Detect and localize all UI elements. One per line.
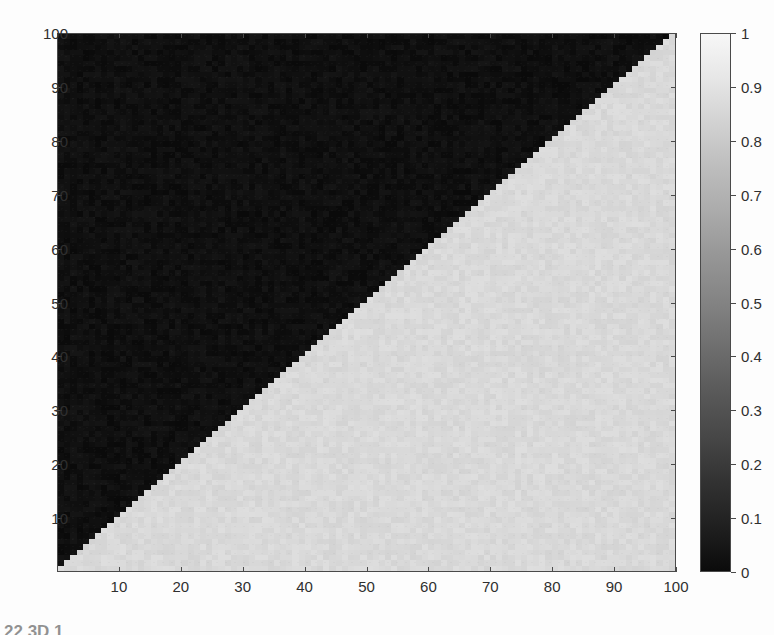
y-tick-label: 40 <box>51 348 68 365</box>
y-tick-label: 20 <box>51 456 68 473</box>
x-tick <box>181 567 182 572</box>
x-tick <box>614 567 615 572</box>
x-tick-top <box>305 33 306 38</box>
colorbar-tick <box>731 87 736 88</box>
x-tick <box>367 567 368 572</box>
colorbar-tick <box>731 464 736 465</box>
y-tick-right <box>671 303 676 304</box>
x-tick-top <box>490 33 491 38</box>
colorbar <box>700 33 731 572</box>
x-tick-label: 90 <box>606 578 623 595</box>
x-tick <box>428 567 429 572</box>
x-tick-top <box>428 33 429 38</box>
x-tick <box>552 567 553 572</box>
y-tick-label: 70 <box>51 186 68 203</box>
heatmap-image <box>58 34 675 571</box>
x-tick-label: 30 <box>234 578 251 595</box>
y-tick-right <box>671 518 676 519</box>
y-tick-label: 10 <box>51 510 68 527</box>
y-tick-right <box>671 87 676 88</box>
colorbar-tick-label: 0.7 <box>741 186 762 203</box>
figure-container: 1020304050607080901001020304050607080901… <box>0 0 774 635</box>
x-tick <box>119 567 120 572</box>
y-tick-right <box>671 464 676 465</box>
colorbar-tick-label: 0.3 <box>741 402 762 419</box>
x-tick-label: 100 <box>663 578 688 595</box>
heatmap-axes <box>57 33 676 572</box>
x-tick-label: 80 <box>544 578 561 595</box>
x-tick-top <box>614 33 615 38</box>
x-tick <box>305 567 306 572</box>
colorbar-tick-label: 0.6 <box>741 240 762 257</box>
colorbar-tick-label: 0.2 <box>741 456 762 473</box>
colorbar-tick <box>731 518 736 519</box>
y-tick-right <box>671 410 676 411</box>
y-tick-right <box>671 249 676 250</box>
x-tick-label: 70 <box>482 578 499 595</box>
colorbar-tick <box>731 410 736 411</box>
colorbar-tick-label: 0.5 <box>741 294 762 311</box>
colorbar-tick-label: 0.1 <box>741 510 762 527</box>
y-tick-label: 80 <box>51 132 68 149</box>
y-tick-label: 50 <box>51 294 68 311</box>
colorbar-tick <box>731 195 736 196</box>
x-tick <box>243 567 244 572</box>
colorbar-tick-label: 0.8 <box>741 132 762 149</box>
x-tick-top <box>119 33 120 38</box>
x-tick-top <box>676 33 677 38</box>
colorbar-tick <box>731 141 736 142</box>
y-tick-label: 30 <box>51 402 68 419</box>
y-tick-label: 90 <box>51 78 68 95</box>
x-tick-label: 10 <box>111 578 128 595</box>
x-tick-label: 40 <box>296 578 313 595</box>
x-tick-label: 60 <box>420 578 437 595</box>
x-tick-top <box>552 33 553 38</box>
x-tick-top <box>243 33 244 38</box>
colorbar-tick <box>731 356 736 357</box>
x-tick <box>490 567 491 572</box>
colorbar-tick <box>731 303 736 304</box>
colorbar-tick-label: 1 <box>741 25 749 42</box>
y-tick-right <box>671 141 676 142</box>
colorbar-tick-label: 0.4 <box>741 348 762 365</box>
colorbar-tick <box>731 33 736 34</box>
x-tick <box>676 567 677 572</box>
y-tick-label: 60 <box>51 240 68 257</box>
colorbar-tick <box>731 572 736 573</box>
x-tick-top <box>181 33 182 38</box>
x-tick-top <box>367 33 368 38</box>
colorbar-tick <box>731 249 736 250</box>
y-tick-right <box>671 356 676 357</box>
page-caption-fragment: 22 3D 1 <box>4 622 64 635</box>
colorbar-tick-label: 0 <box>741 564 749 581</box>
y-tick-right <box>671 195 676 196</box>
y-tick-right <box>671 33 676 34</box>
y-tick-label: 100 <box>43 25 68 42</box>
x-tick-label: 20 <box>172 578 189 595</box>
colorbar-tick-label: 0.9 <box>741 78 762 95</box>
x-tick-label: 50 <box>358 578 375 595</box>
